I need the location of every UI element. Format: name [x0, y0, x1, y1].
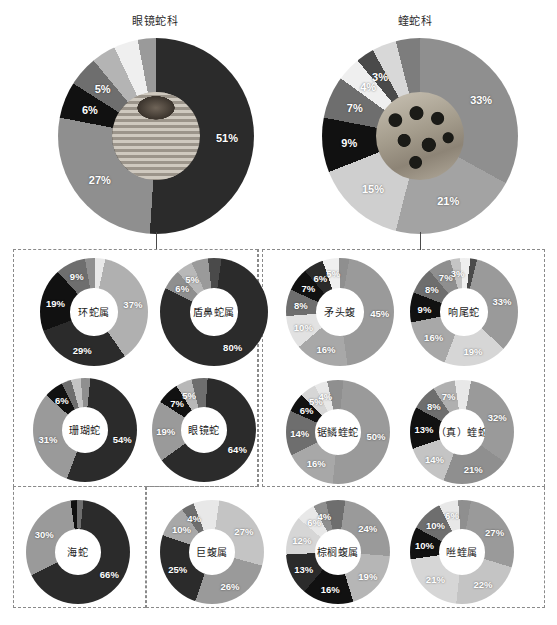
donut-center: 巨蝮属	[189, 529, 235, 575]
donut-chart-coral-snake[interactable]: 珊瑚蛇54%31%6%	[33, 378, 137, 482]
donut-center-label: 巨蝮属	[196, 544, 228, 559]
slice-label: 25%	[168, 563, 187, 574]
slice-label: 6%	[445, 510, 459, 521]
donut-center: 锯鳞蝰蛇	[315, 409, 361, 455]
donut-chart-bitis[interactable]: 咝蝰属27%22%21%10%10%6%	[410, 500, 514, 604]
donut-chart-rattlesnake[interactable]: 响尾蛇33%19%16%9%8%7%3%	[410, 258, 518, 366]
slice-label: 21%	[437, 195, 459, 207]
donut-center-label: 响尾蛇	[448, 304, 480, 319]
donut-chart-bothrops[interactable]: 矛头蝮45%16%10%8%7%6%5%	[286, 258, 394, 366]
slice-label: 4%	[319, 390, 333, 401]
slice-label: 51%	[216, 132, 238, 144]
donut-center: 海蛇	[55, 529, 101, 575]
slice-label: 3%	[372, 71, 388, 83]
donut-center-label: 矛头蝮	[324, 304, 356, 319]
slice-label: 12%	[292, 534, 311, 545]
figure-canvas: 眼镜蛇科 蝰蛇科 51%27%6%5% 33%21%15%9%7%4%3% 环蛇…	[0, 0, 557, 625]
group-box-seam-left	[13, 486, 147, 488]
donut-center-label: 棕榈蝮属	[317, 544, 359, 559]
slice-label: 3%	[451, 267, 465, 278]
slice-label: 14%	[425, 453, 444, 464]
chart-title-viperidae: 蝰蛇科	[355, 12, 475, 28]
donut-center: 珊瑚蛇	[62, 407, 108, 453]
donut-center-label: （真）蝰蛇	[439, 424, 485, 439]
slice-label: 13%	[294, 563, 313, 574]
slice-label: 27%	[89, 174, 111, 186]
slice-label: 32%	[488, 412, 507, 423]
slice-label: 37%	[123, 299, 142, 310]
slice-label: 19%	[463, 345, 482, 356]
chart-title-elapidae: 眼镜蛇科	[95, 12, 215, 28]
slice-label: 15%	[362, 183, 384, 195]
donut-center-label: 海蛇	[67, 544, 88, 559]
slice-label: 27%	[485, 527, 504, 538]
slice-label: 64%	[228, 443, 247, 454]
slice-label: 21%	[426, 574, 445, 585]
slice-label: 33%	[470, 94, 492, 106]
donut-center: 盾鼻蛇属	[190, 288, 238, 336]
slice-label: 10%	[294, 322, 313, 333]
slice-label: 16%	[321, 584, 340, 595]
donut-chart-bothriechis[interactable]: 棕榈蝮属24%19%16%13%12%6%4%	[286, 500, 390, 604]
donut-chart-bungarus[interactable]: 环蛇属37%29%19%9%	[40, 258, 148, 366]
donut-center	[376, 92, 464, 180]
slice-label: 9%	[341, 137, 357, 149]
donut-chart-cobra[interactable]: 眼镜蛇64%19%7%5%	[152, 378, 256, 482]
slice-label: 16%	[424, 332, 443, 343]
slice-label: 5%	[185, 273, 199, 284]
slice-label: 19%	[46, 297, 65, 308]
slice-label: 10%	[415, 540, 434, 551]
slice-label: 19%	[358, 570, 377, 581]
donut-center-label: 锯鳞蝰蛇	[317, 424, 359, 439]
connector-line-viperidae	[420, 232, 421, 250]
slice-label: 22%	[473, 578, 492, 589]
slice-label: 27%	[234, 525, 253, 536]
donut-center-label: 环蛇属	[78, 304, 110, 319]
donut-center-label: 咝蝰属	[446, 544, 478, 559]
slice-label: 8%	[425, 283, 439, 294]
donut-chart-true-viper[interactable]: （真）蝰蛇32%21%14%13%8%7%	[410, 380, 514, 484]
donut-center: （真）蝰蛇	[439, 409, 485, 455]
donut-chart-lachesis[interactable]: 巨蝮属27%26%25%10%4%	[160, 500, 264, 604]
slice-label: 8%	[294, 300, 308, 311]
donut-center: 咝蝰属	[439, 529, 485, 575]
slice-label: 13%	[414, 423, 433, 434]
slice-label: 5%	[182, 389, 196, 400]
connector-line-elapidae	[156, 232, 157, 250]
slice-label: 4%	[318, 511, 332, 522]
slice-label: 4%	[187, 513, 201, 524]
slice-label: 10%	[172, 524, 191, 535]
slice-label: 19%	[156, 425, 175, 436]
slice-label: 5%	[95, 83, 111, 95]
slice-label: 5%	[326, 267, 340, 278]
slice-label: 6%	[314, 272, 328, 283]
slice-label: 7%	[301, 283, 315, 294]
donut-chart-elapidae[interactable]: 51%27%6%5%	[58, 38, 254, 234]
cobra-photo	[112, 92, 200, 180]
donut-center: 环蛇属	[70, 288, 118, 336]
slice-label: 45%	[370, 307, 389, 318]
slice-label: 6%	[82, 104, 98, 116]
slice-label: 10%	[426, 519, 445, 530]
donut-center: 矛头蝮	[316, 288, 364, 336]
slice-label: 54%	[113, 433, 132, 444]
donut-chart-echis[interactable]: 锯鳞蝰蛇50%16%14%6%5%4%	[286, 380, 390, 484]
slice-label: 8%	[427, 401, 441, 412]
donut-center-label: 珊瑚蛇	[69, 422, 101, 437]
donut-center	[112, 92, 200, 180]
donut-chart-viperidae[interactable]: 33%21%15%9%7%4%3%	[322, 38, 518, 234]
slice-label: 24%	[358, 523, 377, 534]
slice-label: 31%	[38, 434, 57, 445]
group-box-seam-top	[146, 486, 259, 488]
slice-label: 30%	[35, 529, 54, 540]
donut-chart-sea-snake[interactable]: 海蛇66%30%	[26, 500, 130, 604]
donut-center: 棕榈蝮属	[315, 529, 361, 575]
slice-label: 66%	[100, 568, 119, 579]
slice-label: 7%	[347, 102, 363, 114]
donut-center-label: 盾鼻蛇属	[193, 304, 235, 319]
donut-chart-aspidelaps[interactable]: 盾鼻蛇属80%6%5%	[160, 258, 268, 366]
slice-label: 9%	[70, 271, 84, 282]
donut-center: 响尾蛇	[440, 288, 488, 336]
donut-center-label: 眼镜蛇	[188, 422, 220, 437]
slice-label: 16%	[316, 344, 335, 355]
